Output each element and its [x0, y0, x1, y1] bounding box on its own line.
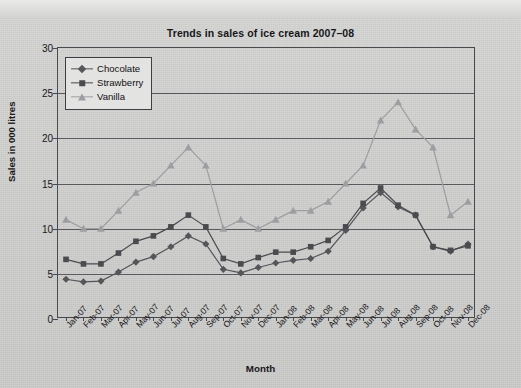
data-point-square [168, 224, 174, 230]
series-line-strawberry [66, 188, 468, 264]
data-point-diamond [307, 255, 314, 262]
data-point-triangle [185, 144, 193, 151]
data-point-triangle [359, 162, 367, 169]
legend-marker-triangle-icon [71, 92, 93, 102]
data-point-square [255, 255, 261, 261]
data-point-square [63, 257, 69, 263]
data-point-square [238, 261, 244, 267]
y-tick-label: 20 [42, 133, 53, 144]
data-point-diamond [237, 269, 244, 276]
data-point-triangle [132, 189, 140, 196]
data-point-diamond [115, 268, 122, 275]
data-point-diamond [220, 266, 227, 273]
data-point-square [413, 212, 419, 218]
data-point-square [151, 233, 157, 239]
data-point-square [343, 224, 349, 230]
series-line-chocolate [66, 193, 468, 282]
data-point-triangle [62, 216, 70, 223]
data-point-diamond [255, 264, 262, 271]
data-point-square [448, 248, 454, 254]
y-axis-label: Sales in 000 litres [6, 101, 17, 182]
data-point-square [221, 256, 227, 262]
data-point-diamond [202, 240, 209, 247]
data-point-square [325, 238, 331, 244]
data-point-diamond [132, 258, 139, 265]
data-point-triangle [464, 198, 472, 205]
data-point-triangle [254, 225, 262, 232]
x-axis-label: Month [0, 363, 521, 374]
data-point-square [116, 250, 122, 256]
legend-marker-diamond-icon [71, 64, 93, 74]
data-point-square [430, 244, 436, 250]
chart-legend: ChocolateStrawberryVanilla [65, 57, 152, 110]
scanned-page-background: Trends in sales of ice cream 2007–08 Sal… [0, 0, 521, 388]
series-line-vanilla [66, 102, 468, 228]
data-point-square [133, 239, 139, 245]
y-tick-label: 30 [42, 43, 53, 54]
data-point-triangle [220, 225, 228, 232]
data-point-triangle [412, 126, 420, 133]
y-tick-label: 15 [42, 178, 53, 189]
data-point-square [203, 224, 209, 230]
y-tick-mark [53, 319, 58, 320]
data-point-diamond [167, 243, 174, 250]
data-point-diamond [290, 257, 297, 264]
data-point-square [186, 212, 192, 218]
data-point-triangle [237, 216, 245, 223]
data-point-diamond [97, 277, 104, 284]
data-point-square [360, 201, 366, 207]
legend-item-vanilla[interactable]: Vanilla [71, 90, 143, 104]
data-point-square [308, 244, 314, 250]
chart-title: Trends in sales of ice cream 2007–08 [0, 27, 521, 39]
data-point-triangle [394, 98, 402, 105]
legend-marker-square-icon [71, 78, 93, 88]
data-point-square [273, 249, 279, 255]
data-point-diamond [185, 232, 192, 239]
legend-label: Vanilla [97, 92, 125, 102]
data-point-diamond [272, 259, 279, 266]
data-point-square [395, 202, 401, 208]
data-point-diamond [80, 278, 87, 285]
data-point-square [290, 249, 296, 255]
legend-item-chocolate[interactable]: Chocolate [71, 62, 143, 76]
data-point-square [81, 261, 87, 267]
data-point-square [98, 261, 104, 267]
data-point-diamond [150, 253, 157, 260]
data-point-diamond [62, 276, 69, 283]
legend-label: Strawberry [97, 78, 143, 88]
data-point-triangle [272, 216, 280, 223]
data-point-square [378, 185, 384, 191]
legend-label: Chocolate [97, 64, 140, 74]
legend-item-strawberry[interactable]: Strawberry [71, 76, 143, 90]
y-tick-label: 25 [42, 88, 53, 99]
y-tick-label: 10 [42, 223, 53, 234]
data-point-square [465, 243, 471, 249]
